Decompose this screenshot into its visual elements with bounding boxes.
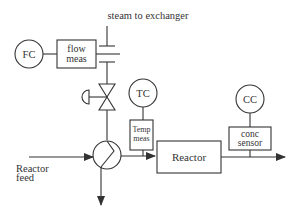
temp-meas-label-2: meas (133, 134, 149, 143)
cc-controller[interactable]: CC (236, 85, 264, 113)
conc-sensor-box[interactable]: conc sensor (229, 127, 271, 150)
conc-sensor-label-2: sensor (238, 138, 263, 148)
valve-actuator-icon (82, 90, 89, 104)
cc-label: CC (243, 94, 257, 105)
control-valve[interactable] (82, 84, 115, 110)
flow-meas-box[interactable]: flow meas (57, 40, 96, 68)
process-diagram: steam to exchanger FC flow meas Reactor … (0, 0, 298, 217)
tc-label: TC (136, 88, 149, 99)
reactor-box[interactable]: Reactor (157, 141, 221, 173)
heat-exchanger[interactable] (93, 141, 121, 169)
reactor-label: Reactor (172, 151, 207, 163)
reactor-feed-label-2: feed (16, 172, 35, 183)
steam-label: steam to exchanger (107, 10, 189, 21)
temp-meas-label-1: Temp (132, 125, 150, 134)
flow-meas-label-2: meas (66, 53, 87, 64)
temp-meas-box[interactable]: Temp meas (130, 120, 153, 150)
tc-controller[interactable]: TC (129, 79, 157, 107)
fc-controller[interactable]: FC (15, 40, 43, 68)
fc-label: FC (23, 49, 36, 60)
